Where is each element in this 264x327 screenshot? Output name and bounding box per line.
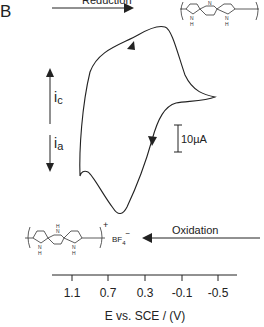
svg-text:H: H [56, 223, 60, 229]
reduction-label: Reduction [82, 0, 132, 6]
counterion-sup: − [126, 229, 131, 238]
svg-text:H: H [225, 21, 229, 27]
anodic-current-sub: a [57, 140, 64, 152]
cv-curve [80, 26, 215, 213]
svg-text:ic: ic [54, 89, 63, 106]
svg-text:BF4−: BF4− [112, 229, 131, 246]
reduction-arrow: Reduction [52, 0, 134, 13]
cv-figure: B Reduction N H N N H ic ia [0, 0, 264, 327]
svg-text:H: H [190, 21, 194, 27]
oxidized-charge: + [103, 220, 108, 230]
arrow-up-icon [46, 68, 54, 77]
oxidation-arrow: Oxidation [142, 224, 260, 243]
arrow-down-icon [46, 163, 54, 172]
cathodic-current-sub: c [57, 94, 63, 106]
x-axis: 1.1 0.7 0.3 -0.1 -0.5 E vs. SCE / (V) [52, 275, 237, 323]
x-tick-label: 1.1 [64, 286, 81, 300]
x-tick-label: 0.3 [137, 286, 154, 300]
current-direction-indicator: ic ia [46, 68, 64, 172]
counterion: BF [112, 235, 122, 244]
oxidation-label: Oxidation [172, 224, 218, 236]
counterion-sub: 4 [122, 240, 126, 246]
x-axis-title: E vs. SCE / (V) [105, 309, 186, 323]
scale-bar-label: 10µA [181, 133, 208, 145]
oxidized-polypyrrole-structure: N H N H N H [25, 223, 105, 256]
reverse-sweep-arrow-icon [148, 136, 157, 146]
x-tick-label: -0.5 [208, 286, 229, 300]
arrow-left-icon [142, 233, 152, 243]
panel-label: B [0, 2, 11, 21]
svg-text:H: H [72, 250, 76, 256]
svg-text:N: N [208, 0, 212, 6]
svg-text:H: H [38, 250, 42, 256]
x-tick-label: 0.7 [100, 286, 117, 300]
forward-sweep-arrow-icon [127, 41, 135, 50]
svg-text:ia: ia [54, 135, 64, 152]
scale-bar: 10µA [174, 125, 208, 152]
neutral-polypyrrole-structure: N H N N H [180, 0, 259, 27]
x-tick-label: -0.1 [172, 286, 193, 300]
